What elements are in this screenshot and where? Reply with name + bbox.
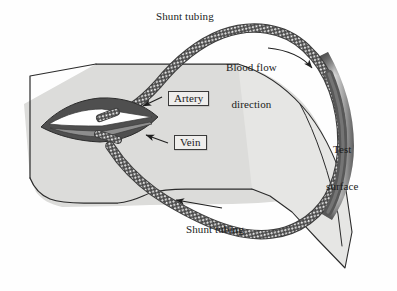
test-surface-line-1: Test (326, 143, 358, 155)
av-shunt-figure: Shunt tubing Blood flow direction Artery… (0, 0, 397, 291)
label-blood-flow-direction: Blood flow direction (226, 36, 277, 135)
blood-flow-line-1: Blood flow (226, 61, 277, 73)
label-artery: Artery (168, 91, 209, 106)
test-surface-line-2: surface (326, 180, 358, 192)
label-vein: Vein (174, 135, 207, 150)
label-shunt-tubing-top: Shunt tubing (156, 10, 214, 22)
label-test-surface: Test surface (326, 118, 358, 217)
blood-flow-line-2: direction (226, 98, 277, 110)
label-shunt-tubing-bottom: Shunt tubing (186, 223, 244, 235)
